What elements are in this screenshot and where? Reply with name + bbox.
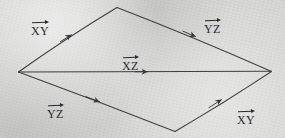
vector-arrow-bar-top-left xyxy=(31,20,49,25)
edge-upper-right xyxy=(117,8,272,72)
edge-lower-right xyxy=(175,72,272,132)
vector-label-bottom-right-text: XY xyxy=(237,114,255,126)
vector-label-top-left-text: XY xyxy=(31,25,49,37)
vector-label-top-right-text: YZ xyxy=(204,23,221,35)
arrowhead-lower-right xyxy=(209,100,222,108)
arrowhead-lower-left xyxy=(86,97,100,102)
vector-label-bottom-left: YZ xyxy=(47,103,64,120)
edge-lower-left xyxy=(19,72,176,132)
vector-label-top-right: YZ xyxy=(204,18,221,35)
vector-label-top-left: XY xyxy=(31,20,49,37)
vector-diagram-canvas: XY YZ XZ YZ XY xyxy=(0,0,285,138)
vector-label-center: XZ xyxy=(122,55,139,72)
vector-arrow-bar-bottom-right xyxy=(237,109,255,114)
vector-arrow-bar-top-right xyxy=(204,18,221,23)
vector-label-center-text: XZ xyxy=(122,60,139,72)
vector-label-bottom-right: XY xyxy=(237,109,255,126)
vector-label-bottom-left-text: YZ xyxy=(47,108,64,120)
arrowhead-upper-left xyxy=(61,35,72,42)
vector-arrow-bar-center xyxy=(122,55,139,60)
vector-arrow-bar-bottom-left xyxy=(47,103,64,108)
edge-upper-left xyxy=(19,8,118,73)
